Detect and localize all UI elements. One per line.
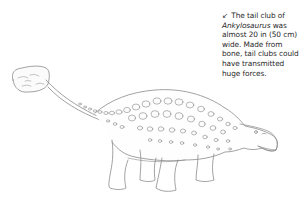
arrow-down-left-icon: ↙ [222, 11, 228, 20]
book-page: ↙ The tail club of Ankylosaurus was almo… [0, 0, 305, 203]
caption-lead: The tail club of [231, 11, 284, 20]
caption: ↙ The tail club of Ankylosaurus was almo… [222, 11, 304, 78]
caption-species: Ankylosaurus [222, 21, 270, 30]
tail-club [12, 66, 49, 92]
leg-front-left [156, 158, 178, 191]
